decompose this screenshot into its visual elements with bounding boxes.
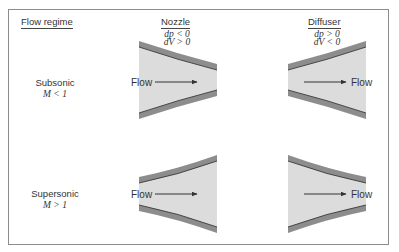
subsonic-nozzle-flow-label: Flow: [131, 77, 153, 88]
supersonic-diffuser-flow-label: Flow: [351, 189, 373, 200]
subsonic-diffuser-flow-label: Flow: [351, 77, 373, 88]
duct-diagrams: Flow Flow Flow Flow: [0, 0, 399, 252]
supersonic-nozzle-flow-label: Flow: [131, 189, 153, 200]
